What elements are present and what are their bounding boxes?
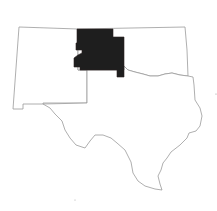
map-dot	[215, 93, 216, 94]
map-container	[0, 0, 217, 211]
region-map	[0, 0, 217, 211]
map-dot	[75, 200, 76, 201]
state-new-mexico[interactable]	[13, 27, 87, 109]
